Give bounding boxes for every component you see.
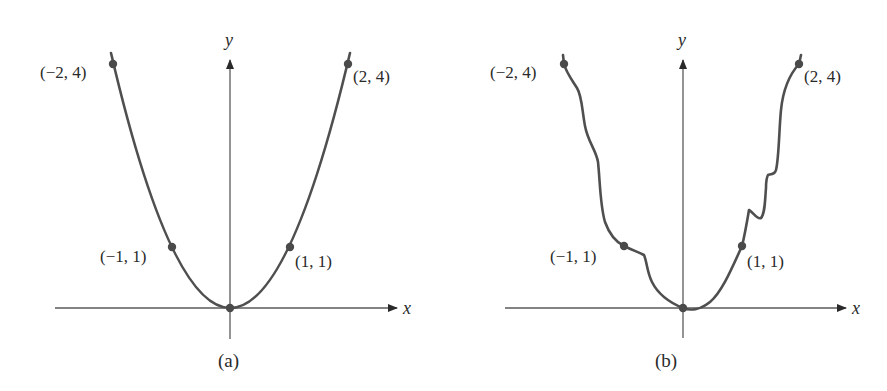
caption-b: (b) bbox=[655, 350, 677, 372]
label-neg2-4: (−2, 4) bbox=[40, 63, 86, 82]
label-neg1-1: (−1, 1) bbox=[100, 247, 146, 266]
panel-a: x y (−2, 4) (−1, 1) (1, 1) (2, 4) (a) bbox=[40, 30, 411, 372]
label-neg2-4: (−2, 4) bbox=[490, 63, 536, 82]
point-neg1-1 bbox=[168, 243, 176, 251]
point-neg1-1 bbox=[620, 242, 628, 250]
x-axis-label: x bbox=[851, 298, 860, 318]
y-axis-label: y bbox=[223, 30, 233, 50]
x-axis-label: x bbox=[402, 298, 411, 318]
point-neg2-4 bbox=[109, 60, 117, 68]
point-neg2-4 bbox=[560, 60, 568, 68]
figure: x y (−2, 4) (−1, 1) (1, 1) (2, 4) (a) x … bbox=[0, 0, 887, 391]
label-2-4: (2, 4) bbox=[353, 67, 390, 86]
point-origin bbox=[679, 304, 687, 312]
label-1-1: (1, 1) bbox=[747, 252, 784, 271]
label-1-1: (1, 1) bbox=[295, 252, 332, 271]
point-1-1 bbox=[286, 243, 294, 251]
caption-a: (a) bbox=[218, 350, 239, 372]
label-neg1-1: (−1, 1) bbox=[550, 247, 596, 266]
point-2-4 bbox=[795, 60, 803, 68]
y-axis-label: y bbox=[676, 30, 686, 50]
point-origin bbox=[226, 304, 234, 312]
point-2-4 bbox=[344, 60, 352, 68]
irregular-curve bbox=[563, 55, 801, 310]
label-2-4: (2, 4) bbox=[804, 67, 841, 86]
point-1-1 bbox=[738, 242, 746, 250]
panel-b: x y (−2, 4) (−1, 1) (1, 1) (2, 4) (b) bbox=[490, 30, 860, 372]
